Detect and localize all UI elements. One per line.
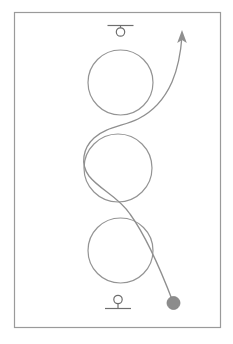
diagram-canvas: [0, 0, 233, 344]
support-bottom-hinge-circle: [114, 295, 122, 303]
figure-background: [0, 0, 233, 344]
support-top-hinge-circle: [116, 28, 124, 36]
mass-ball: [167, 297, 180, 310]
diagram-figure: [0, 0, 233, 344]
